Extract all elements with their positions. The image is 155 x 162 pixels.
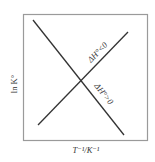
line-delta-h-negative xyxy=(38,32,128,125)
annotation-delta-h-negative: ΔH°<0 xyxy=(85,39,110,65)
y-axis-label: ln K° xyxy=(9,75,19,93)
x-axis-label: T⁻¹/K⁻¹ xyxy=(73,145,100,155)
annotation-delta-h-positive: ΔH°>0 xyxy=(92,80,116,107)
line-delta-h-positive xyxy=(33,20,124,135)
van-t-hoff-plot: ΔH°<0 ΔH°>0 T⁻¹/K⁻¹ ln K° xyxy=(0,0,155,162)
